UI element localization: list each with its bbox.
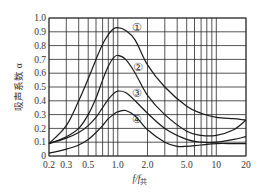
y-axis-label: 吸声系数 α: [13, 63, 24, 110]
x-axis-tick-labels: 0.20.30.51.02.05.01020: [43, 160, 251, 170]
x-tick-label: 0.2: [43, 160, 55, 170]
x-tick-label: 0.3: [60, 160, 72, 170]
x-tick-label: 1.0: [112, 160, 124, 170]
y-tick-label: 0: [41, 151, 46, 161]
y-tick-label: 0.8: [34, 41, 46, 51]
x-tick-label: 10: [212, 160, 222, 170]
curve-label-2: ②: [133, 61, 143, 74]
curve-label-1: ①: [132, 21, 142, 34]
absorption-coefficient-chart: ①②③④ 0.20.30.51.02.05.01020 00.10.20.30.…: [0, 0, 259, 194]
y-tick-label: 0.5: [34, 82, 46, 92]
curve-label-4: ④: [132, 113, 142, 126]
y-tick-label: 0.2: [34, 124, 46, 134]
y-axis-tick-labels: 00.10.20.30.40.50.60.70.80.91.0: [34, 13, 46, 161]
y-tick-label: 0.3: [34, 110, 46, 120]
y-tick-label: 0.9: [34, 27, 46, 37]
x-tick-label: 5.0: [181, 160, 193, 170]
x-tick-label: 0.5: [82, 160, 94, 170]
y-tick-label: 0.1: [34, 137, 46, 147]
curve-labels: ①②③④: [132, 21, 143, 126]
x-axis-label: f/f共: [133, 174, 148, 186]
x-tick-label: 2.0: [142, 160, 154, 170]
y-tick-label: 0.7: [34, 55, 46, 65]
y-tick-label: 0.4: [34, 96, 46, 106]
curve-label-3: ③: [132, 87, 142, 100]
y-tick-label: 1.0: [34, 13, 46, 23]
y-tick-label: 0.6: [34, 68, 46, 78]
x-tick-label: 20: [241, 160, 251, 170]
